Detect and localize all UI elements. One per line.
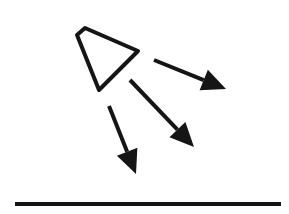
light-reflection-diagram [0, 0, 289, 214]
ray-right-shaft [154, 60, 204, 80]
light-source-icon [77, 28, 138, 90]
ray-diagonal-shaft [130, 80, 177, 130]
ray-down-shaft [109, 106, 127, 152]
rays [109, 60, 226, 174]
